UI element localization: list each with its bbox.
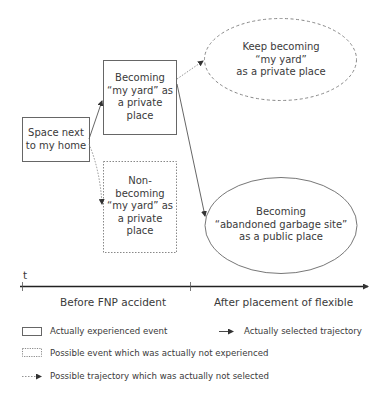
edge-becoming-to-garbage-site bbox=[177, 84, 205, 216]
edge-becoming-to-keep-becoming bbox=[177, 61, 203, 79]
edge-start-to-non-becoming bbox=[89, 144, 102, 204]
legend-dotted-box-icon bbox=[23, 349, 42, 357]
legend-solid-box-label: Actually experienced event bbox=[50, 326, 167, 336]
timeline-period-after: After placement of flexible bbox=[214, 296, 353, 308]
legend-dotted-arrow-label: Possible trajectory which was actually n… bbox=[50, 371, 269, 381]
keep-becoming-node-label: Keep becoming “my yard” as a private pla… bbox=[205, 41, 357, 79]
garbage-site-node-label: Becoming “abandoned garbage site” as a p… bbox=[205, 206, 357, 244]
timeline-period-before: Before FNP accident bbox=[60, 296, 166, 308]
non-becoming-node-label: Non- becoming “my yard” as a private pla… bbox=[103, 175, 177, 238]
becoming-node-label: Becoming “my yard” as a private place bbox=[103, 72, 177, 122]
legend-dotted-box-label: Possible event which was actually not ex… bbox=[50, 348, 268, 358]
edge-start-to-becoming bbox=[89, 101, 102, 139]
timeline-axis-label: t bbox=[23, 269, 27, 281]
legend-solid-arrow-label: Actually selected trajectory bbox=[244, 326, 362, 336]
legend-solid-box-icon bbox=[23, 328, 42, 336]
start-node-label: Space next to my home bbox=[22, 127, 90, 152]
